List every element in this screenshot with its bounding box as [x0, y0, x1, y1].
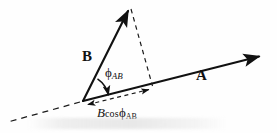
angle-phi-symbol: ϕ [105, 65, 112, 80]
projection-cos-text: cos [105, 108, 119, 119]
angle-phi-subscript: AB [112, 71, 123, 81]
projection-magnitude-b: B [97, 105, 105, 120]
projection-length-label: BcosϕAB [97, 106, 137, 121]
projection-phi-symbol: ϕ [119, 105, 126, 120]
a-axis-extension-dashed-line [8, 102, 80, 122]
angle-phi-ab-label: ϕAB [105, 66, 123, 81]
vector-a-label: A [196, 68, 207, 83]
vector-diagram-figure: B A ϕAB BcosϕAB [0, 0, 277, 133]
angle-arc-phi-ab [98, 79, 109, 95]
projection-phi-subscript: AB [126, 112, 137, 121]
vector-diagram-canvas [0, 0, 277, 133]
perpendicular-drop-dashed-line [131, 9, 153, 86]
vector-b-label: B [82, 49, 92, 64]
